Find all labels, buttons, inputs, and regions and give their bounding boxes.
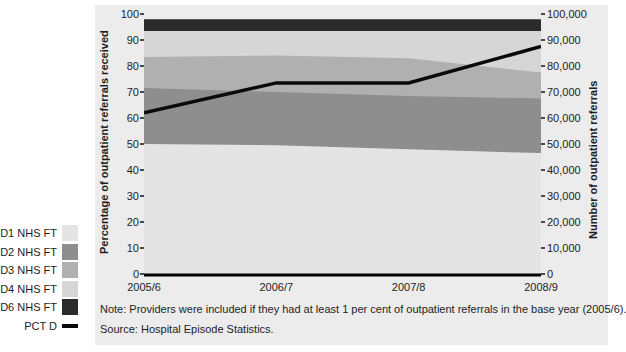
- legend-item-pctd: PCT D: [0, 317, 85, 336]
- y-axis-tick-label-right: 90,000: [547, 34, 609, 47]
- y-axis-tick-right: [541, 221, 545, 223]
- legend-label: D2 NHS FT: [0, 246, 57, 258]
- y-axis-tick-label-left: 30: [95, 190, 139, 203]
- legend-label: PCT D: [0, 320, 57, 332]
- legend-swatch-d6: [62, 299, 78, 315]
- y-axis-tick-right: [541, 273, 545, 275]
- legend-label: D6 NHS FT: [0, 301, 57, 313]
- y-axis-tick-right: [541, 247, 545, 249]
- legend-item-d3: D3 NHS FT: [0, 261, 85, 280]
- legend-item-d2: D2 NHS FT: [0, 243, 85, 262]
- y-axis-tick-left: [140, 221, 144, 223]
- legend-line-swatch: [62, 324, 78, 328]
- x-axis-label: 2007/8: [364, 281, 454, 293]
- y-axis-tick-label-left: 40: [95, 164, 139, 177]
- y-axis-tick-right: [541, 117, 545, 119]
- legend-swatch-d3: [62, 262, 78, 278]
- y-axis-tick-label-right: 10,000: [547, 242, 609, 255]
- x-axis-label: 2006/7: [231, 281, 321, 293]
- y-axis-tick-label-left: 100: [95, 8, 139, 21]
- y-axis-tick-right: [541, 195, 545, 197]
- legend-label: D3 NHS FT: [0, 264, 57, 276]
- y-axis-tick-label-right: 80,000: [547, 60, 609, 73]
- y-axis-tick-left: [140, 273, 144, 275]
- y-axis-tick-right: [541, 91, 545, 93]
- y-axis-tick-left: [140, 91, 144, 93]
- y-axis-tick-label-left: 70: [95, 86, 139, 99]
- y-axis-tick-right: [541, 143, 545, 145]
- y-axis-tick-label-left: 80: [95, 60, 139, 73]
- y-axis-tick-right: [541, 65, 545, 67]
- y-axis-tick-label-right: 30,000: [547, 190, 609, 203]
- chart-note: Note: Providers were included if they ha…: [100, 302, 626, 316]
- x-axis-label: 2008/9: [496, 281, 586, 293]
- y-axis-tick-label-left: 0: [95, 268, 139, 281]
- y-axis-tick-left: [140, 143, 144, 145]
- chart-figure: Percentage of outpatient referrals recei…: [95, 5, 608, 345]
- y-axis-tick-label-left: 50: [95, 138, 139, 151]
- y-axis-tick-left: [140, 65, 144, 67]
- y-axis-tick-label-left: 90: [95, 34, 139, 47]
- y-axis-tick-label-left: 60: [95, 112, 139, 125]
- y-axis-tick-left: [140, 13, 144, 15]
- y-axis-tick-label-right: 60,000: [547, 112, 609, 125]
- y-axis-tick-label-right: 0: [547, 268, 609, 281]
- legend-item-d4: D4 NHS FT: [0, 280, 85, 299]
- y-axis-tick-label-left: 20: [95, 216, 139, 229]
- legend-swatch-d2: [62, 244, 78, 260]
- y-axis-tick-left: [140, 195, 144, 197]
- y-axis-tick-label-right: 70,000: [547, 86, 609, 99]
- x-axis-label: 2005/6: [99, 281, 189, 293]
- y-axis-tick-left: [140, 247, 144, 249]
- legend-item-d1: D1 NHS FT: [0, 224, 85, 243]
- stacked-area-chart: [144, 14, 541, 278]
- y-axis-tick-label-left: 10: [95, 242, 139, 255]
- chart-legend: D1 NHS FT D2 NHS FT D3 NHS FT D4 NHS FT …: [0, 224, 85, 335]
- y-axis-tick-label-right: 100,000: [547, 8, 609, 21]
- right-axis-title: Number of outpatient referrals: [587, 50, 601, 270]
- y-axis-tick-label-right: 50,000: [547, 138, 609, 151]
- area-d1-nhs-ft: [144, 144, 541, 274]
- y-axis-tick-left: [140, 169, 144, 171]
- y-axis-tick-right: [541, 13, 545, 15]
- y-axis-tick-left: [140, 39, 144, 41]
- legend-item-d6: D6 NHS FT: [0, 298, 85, 317]
- legend-label: D1 NHS FT: [0, 227, 57, 239]
- y-axis-tick-right: [541, 39, 545, 41]
- legend-swatch-d1: [62, 225, 78, 241]
- y-axis-tick-label-right: 20,000: [547, 216, 609, 229]
- y-axis-tick-label-right: 40,000: [547, 164, 609, 177]
- legend-label: D4 NHS FT: [0, 283, 57, 295]
- y-axis-tick-left: [140, 117, 144, 119]
- chart-source: Source: Hospital Episode Statistics.: [100, 322, 274, 336]
- y-axis-tick-right: [541, 169, 545, 171]
- legend-swatch-d4: [62, 281, 78, 297]
